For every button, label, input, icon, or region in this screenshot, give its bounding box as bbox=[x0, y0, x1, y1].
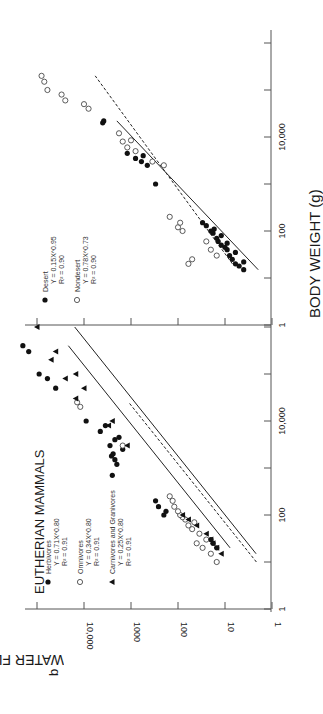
point-open-circle bbox=[194, 541, 199, 546]
y-tick-label: 10,000 bbox=[85, 622, 95, 650]
point-filled-triangle bbox=[48, 357, 54, 363]
point-open-circle bbox=[200, 545, 205, 550]
point-filled-circle bbox=[114, 462, 119, 467]
point-filled-triangle bbox=[203, 531, 209, 537]
fit-lines bbox=[68, 76, 258, 562]
point-filled-circle bbox=[110, 473, 115, 478]
point-filled-triangle bbox=[62, 376, 68, 382]
point-open-circle bbox=[86, 106, 91, 111]
point-filled-circle bbox=[111, 451, 116, 456]
y-tick-label: 1000 bbox=[132, 622, 142, 642]
point-filled-circle bbox=[20, 343, 25, 348]
point-filled-circle bbox=[163, 509, 168, 514]
point-open-circle bbox=[128, 138, 133, 143]
point-open-circle bbox=[190, 257, 195, 262]
legend-text: Y = 0.25X^0.80 bbox=[117, 518, 124, 566]
point-filled-triangle bbox=[53, 349, 59, 355]
point-open-circle bbox=[178, 220, 183, 225]
legend-text: R² = 0.91 bbox=[93, 537, 100, 566]
point-open-circle bbox=[175, 509, 180, 514]
legend-text: R² = 0.91 bbox=[61, 537, 68, 566]
panel-label: b bbox=[46, 669, 61, 676]
point-open-circle bbox=[204, 239, 209, 244]
point-filled-circle bbox=[219, 233, 224, 238]
point-filled-circle bbox=[37, 371, 42, 376]
point-filled-circle bbox=[241, 259, 246, 264]
point-open-circle bbox=[59, 92, 64, 97]
point-filled-circle bbox=[116, 435, 121, 440]
legend-text: Y = 0.71X^0.80 bbox=[53, 518, 60, 566]
fit-line bbox=[129, 402, 257, 562]
point-filled-triangle bbox=[124, 443, 130, 449]
point-filled-circle bbox=[125, 151, 130, 156]
point-filled-circle bbox=[227, 253, 232, 258]
point-open-circle bbox=[116, 131, 121, 136]
point-filled-circle bbox=[233, 261, 238, 266]
point-open-circle bbox=[133, 149, 138, 154]
point-filled-triangle bbox=[218, 551, 224, 557]
point-open-circle bbox=[81, 102, 86, 107]
x-tick-label: 10,000 bbox=[277, 123, 287, 151]
fit-line bbox=[75, 327, 256, 554]
point-filled-circle bbox=[141, 153, 146, 158]
legend-text: R² = 0.91 bbox=[125, 537, 132, 566]
legend-text: R² = 0.90 bbox=[58, 255, 65, 284]
point-open-circle bbox=[125, 145, 130, 150]
point-filled-circle bbox=[153, 181, 158, 186]
y-tick-label: 1 bbox=[273, 622, 283, 627]
point-filled-circle bbox=[153, 498, 158, 503]
point-open-circle bbox=[186, 261, 191, 266]
legend-text: Y = 0.78X^0.73 bbox=[82, 236, 89, 284]
point-filled-triangle bbox=[73, 371, 79, 377]
x-tick-label: 100 bbox=[277, 223, 287, 238]
point-filled-circle bbox=[214, 236, 219, 241]
y-tick-label: 10 bbox=[226, 622, 236, 632]
point-open-circle bbox=[186, 523, 191, 528]
legend-text: Desert bbox=[42, 271, 49, 292]
point-filled-circle bbox=[45, 376, 50, 381]
point-filled-circle bbox=[133, 156, 138, 161]
axes bbox=[25, 30, 272, 612]
point-open-circle bbox=[167, 494, 172, 499]
point-open-circle bbox=[180, 228, 185, 233]
point-filled-circle bbox=[107, 443, 112, 448]
data-points bbox=[20, 73, 246, 585]
point-filled-circle bbox=[42, 297, 47, 302]
point-open-circle bbox=[120, 139, 125, 144]
fit-line bbox=[95, 76, 232, 264]
point-filled-circle bbox=[53, 386, 58, 391]
fit-line bbox=[117, 121, 258, 270]
x-tick-label: 100 bbox=[277, 507, 287, 522]
point-open-circle bbox=[74, 297, 79, 302]
point-open-circle bbox=[208, 247, 213, 252]
panel-top-title: EUTHERIAN MAMMALS bbox=[32, 450, 47, 594]
point-open-circle bbox=[161, 163, 166, 168]
point-open-circle bbox=[197, 531, 202, 536]
point-filled-circle bbox=[84, 418, 89, 423]
x-tick-label: 10,000 bbox=[277, 407, 287, 435]
point-open-circle bbox=[214, 253, 219, 258]
legend-text: Nondesert bbox=[74, 260, 81, 292]
point-open-circle bbox=[78, 404, 83, 409]
point-filled-circle bbox=[26, 349, 31, 354]
point-open-circle bbox=[39, 73, 44, 78]
point-filled-circle bbox=[241, 267, 246, 272]
point-open-circle bbox=[208, 551, 213, 556]
point-filled-circle bbox=[145, 163, 150, 168]
point-filled-circle bbox=[225, 241, 230, 246]
point-open-circle bbox=[42, 79, 47, 84]
y-axis-title: WATER FLUX (ml/day) bbox=[0, 652, 64, 668]
point-open-circle bbox=[150, 159, 155, 164]
point-filled-circle bbox=[98, 429, 103, 434]
legend-text: Carnivores and Granivores bbox=[109, 490, 116, 574]
point-open-circle bbox=[167, 214, 172, 219]
point-filled-circle bbox=[139, 159, 144, 164]
x-axis-title: BODY WEIGHT (g) bbox=[306, 189, 323, 318]
point-open-circle bbox=[192, 520, 197, 525]
x-tick-label: 1 bbox=[277, 322, 287, 327]
legend-text: R² = 0.90 bbox=[90, 255, 97, 284]
point-open-circle bbox=[63, 98, 68, 103]
y-tick-label: 100 bbox=[179, 622, 189, 637]
point-filled-triangle bbox=[81, 385, 87, 391]
legend-text: Omnivores bbox=[77, 540, 84, 574]
